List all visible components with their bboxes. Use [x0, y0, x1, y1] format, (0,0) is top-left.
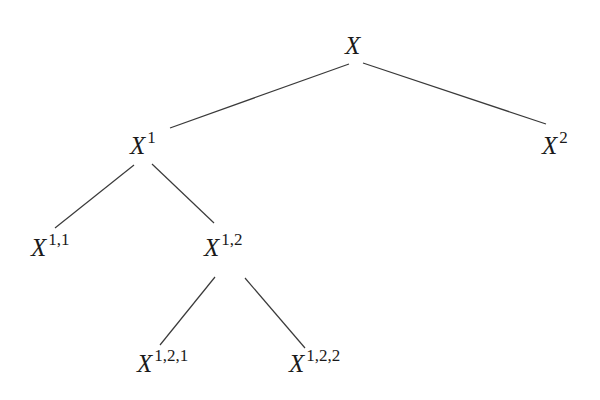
tree-edges	[0, 0, 600, 400]
edge-root-to-n2	[363, 63, 546, 124]
edge-n1-to-n12	[152, 164, 214, 223]
node-x121-base: X	[137, 350, 152, 377]
node-x12-base: X	[204, 234, 219, 261]
node-x121-sup: 1,2,1	[154, 346, 188, 365]
node-x12: X1,2	[204, 235, 243, 260]
node-x121: X1,2,1	[137, 351, 188, 376]
node-x2: X2	[542, 133, 568, 158]
node-root-base: X	[345, 32, 360, 59]
node-root: X	[345, 33, 362, 58]
edge-n12-to-n122	[245, 278, 305, 348]
node-x122-sup: 1,2,2	[306, 346, 340, 365]
node-x11-base: X	[31, 234, 46, 261]
node-x122-base: X	[289, 350, 304, 377]
node-x1-base: X	[130, 132, 145, 159]
node-x12-sup: 1,2	[221, 230, 242, 249]
edge-root-to-n1	[170, 64, 349, 128]
node-x11: X1,1	[31, 235, 70, 260]
node-x2-sup: 2	[559, 128, 568, 147]
node-x1: X1	[130, 133, 156, 158]
node-x2-base: X	[542, 132, 557, 159]
node-x11-sup: 1,1	[48, 230, 69, 249]
node-x1-sup: 1	[147, 128, 156, 147]
edge-n12-to-n121	[160, 277, 215, 345]
tree-diagram: X X1 X2 X1,1 X1,2 X1,2,1 X1,2,2	[0, 0, 600, 400]
node-x122: X1,2,2	[289, 351, 340, 376]
edge-n1-to-n11	[55, 165, 134, 228]
